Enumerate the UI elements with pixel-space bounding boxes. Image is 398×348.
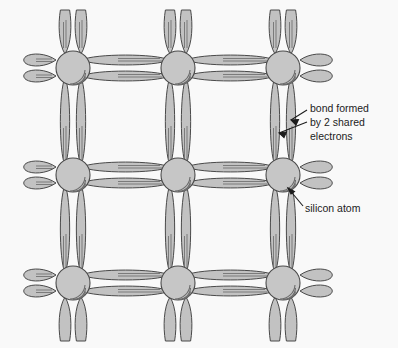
silicon-lattice-svg: bond formed by 2 shared electrons silico… [0,0,398,348]
silicon-atom [161,266,195,300]
silicon-atom [56,158,90,192]
atom-annotation-line-1: silicon atom [305,202,361,214]
silicon-atom [266,51,300,85]
silicon-atom [161,158,195,192]
diagram-canvas: bond formed by 2 shared electrons silico… [0,0,398,348]
silicon-atom [266,158,300,192]
bond-annotation-line-3: electrons [310,130,353,142]
silicon-atom [161,51,195,85]
silicon-atom [56,266,90,300]
silicon-atom [266,266,300,300]
bond-annotation-line-1: bond formed [310,102,369,114]
atom-annotation-text: silicon atom [305,202,361,214]
bond-annotation-line-2: by 2 shared [310,116,365,128]
silicon-atom [56,51,90,85]
